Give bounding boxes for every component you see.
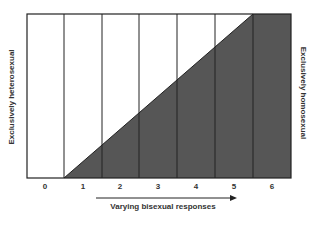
tick-3: 3 [156,182,160,191]
right-label: Exclusively homosexual [299,47,308,140]
arrow-head-icon [230,195,237,201]
tick-2: 2 [118,182,122,191]
tick-6: 6 [270,182,274,191]
tick-0: 0 [43,182,47,191]
left-label: Exclusively heterosexual [7,49,16,144]
tick-1: 1 [81,182,85,191]
tick-4: 4 [194,182,198,191]
tick-5: 5 [232,182,236,191]
axis-title: Varying bisexual responses [110,202,215,211]
